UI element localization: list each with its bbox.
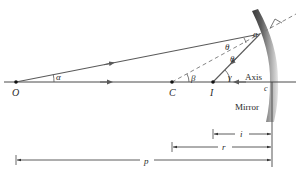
label-O: O <box>12 87 19 98</box>
label-c: c <box>264 84 268 93</box>
label-gamma: γ <box>228 72 232 82</box>
beta-arc <box>187 74 189 82</box>
point-C <box>170 80 174 84</box>
label-a: a <box>253 29 258 39</box>
mirror-ray-diagram: O C I a c α β γ θ θ Axis Mirror i r p <box>0 0 300 175</box>
label-axis: Axis <box>245 72 263 82</box>
point-I <box>211 80 215 84</box>
theta-arc <box>244 38 246 43</box>
label-C: C <box>169 87 176 98</box>
label-I: I <box>209 87 214 98</box>
label-mirror: Mirror <box>235 102 259 112</box>
dimension-i-label: i <box>240 129 243 139</box>
dimension-p: p <box>16 155 271 166</box>
point-O <box>14 80 18 84</box>
label-theta-1: θ <box>225 42 230 52</box>
dimension-r-label: r <box>222 142 226 152</box>
label-beta: β <box>190 73 196 83</box>
dimension-i: i <box>213 129 271 139</box>
alpha-arc <box>53 75 54 82</box>
dimension-p-label: p <box>143 156 149 166</box>
incident-ray <box>16 34 260 82</box>
label-alpha: α <box>56 72 61 82</box>
dimension-r: r <box>172 142 271 152</box>
label-theta-2: θ <box>230 54 235 64</box>
